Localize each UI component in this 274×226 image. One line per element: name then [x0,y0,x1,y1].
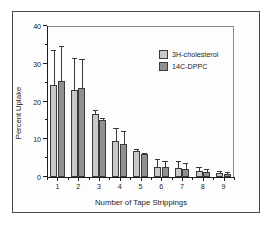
x-tick-2 [78,177,79,181]
x-tick-9 [224,177,225,181]
bar-14c-dppc-5 [141,154,148,177]
error-bar-cap-2-0 [72,58,77,59]
x-tick-label-6: 6 [159,182,163,191]
bar-3h-cholesterol-4 [112,141,119,177]
error-bar-cap-6-0 [155,159,160,160]
legend-swatch-icon-0 [159,50,168,59]
y-tick-label-30: 30 [33,59,41,68]
y-minor-tick-35 [45,44,48,45]
bar-14c-dppc-1 [58,81,65,177]
x-tick-label-7: 7 [180,182,184,191]
error-bar-cap-5-0 [134,149,139,150]
x-tick-3 [99,177,100,181]
x-boundary-tick-9 [234,177,235,180]
error-bar-stem-5-1 [144,154,145,155]
chart-legend: 3H-cholesterol14C-DPPC [159,50,218,71]
error-bar-stem-4-0 [116,129,117,141]
error-bar-stem-4-1 [124,132,125,144]
legend-label: 3H-cholesterol [172,50,218,59]
error-bar-cap-4-1 [121,131,126,132]
error-bar-stem-6-1 [165,162,166,168]
x-boundary-tick-2 [89,177,90,180]
x-tick-8 [203,177,204,181]
bar-3h-cholesterol-3 [92,114,99,177]
x-boundary-tick-4 [130,177,131,180]
error-bar-stem-9-1 [227,173,228,174]
bar-3h-cholesterol-2 [71,90,78,177]
legend-swatch-icon-1 [159,62,168,71]
y-minor-tick-25 [45,82,48,83]
x-boundary-tick-8 [213,177,214,180]
error-bar-cap-8-0 [196,167,201,168]
x-boundary-tick-1 [68,177,69,180]
x-tick-label-9: 9 [222,182,226,191]
bar-14c-dppc-8 [203,172,210,177]
x-tick-1 [57,177,58,181]
x-tick-label-3: 3 [97,182,101,191]
plot-frame-top [47,26,234,27]
x-tick-label-4: 4 [118,182,122,191]
x-boundary-tick-0 [47,177,48,180]
y-tick-10 [43,138,47,139]
error-bar-cap-4-0 [113,128,118,129]
figure: 010203040 123456789 3H-cholesterol14C-DP… [0,0,274,226]
error-bar-cap-3-1 [100,118,105,119]
x-boundary-tick-5 [151,177,152,180]
x-boundary-tick-6 [172,177,173,180]
error-bar-stem-2-0 [74,59,75,90]
y-tick-40 [43,25,47,26]
error-bar-cap-9-1 [225,172,230,173]
error-bar-cap-5-1 [142,153,147,154]
error-bar-cap-7-1 [183,163,188,164]
error-bar-cap-1-1 [59,46,64,47]
y-tick-label-40: 40 [33,22,41,31]
error-bar-stem-8-1 [207,170,208,172]
legend-item-3h-cholesterol[interactable]: 3H-cholesterol [159,50,218,59]
bar-3h-cholesterol-6 [154,167,161,177]
error-bar-cap-1-0 [51,50,56,51]
x-boundary-tick-3 [109,177,110,180]
legend-label: 14C-DPPC [172,62,208,71]
x-tick-label-5: 5 [139,182,143,191]
error-bar-stem-3-0 [95,111,96,114]
error-bar-cap-9-0 [217,171,222,172]
error-bar-stem-7-1 [186,164,187,169]
error-bar-stem-7-0 [178,162,179,168]
x-tick-label-1: 1 [55,182,59,191]
y-tick-label-20: 20 [33,97,41,106]
bar-14c-dppc-7 [182,169,189,177]
y-axis-title: Percent Uptake [14,87,23,139]
error-bar-cap-6-1 [162,161,167,162]
error-bar-stem-2-1 [82,60,83,89]
plot-area: 010203040 123456789 3H-cholesterol14C-DP… [47,26,234,177]
x-tick-5 [141,177,142,181]
bar-14c-dppc-2 [78,88,85,177]
x-tick-7 [182,177,183,181]
x-tick-label-8: 8 [201,182,205,191]
bar-14c-dppc-3 [99,120,106,177]
x-tick-6 [161,177,162,181]
x-tick-4 [120,177,121,181]
error-bar-cap-3-0 [93,110,98,111]
error-bar-stem-6-0 [157,160,158,166]
bar-14c-dppc-6 [162,167,169,177]
error-bar-stem-9-0 [220,172,221,173]
bar-14c-dppc-9 [224,174,231,177]
x-axis-title: Number of Tape Strippings [95,198,187,207]
error-bar-cap-8-1 [204,169,209,170]
error-bar-cap-7-0 [176,161,181,162]
bar-14c-dppc-4 [120,144,127,177]
x-tick-label-2: 2 [76,182,80,191]
y-tick-label-0: 0 [37,173,41,182]
y-tick-30 [43,63,47,64]
y-tick-20 [43,101,47,102]
legend-item-14c-dppc[interactable]: 14C-DPPC [159,62,218,71]
y-tick-label-10: 10 [33,135,41,144]
bar-3h-cholesterol-1 [50,85,57,177]
error-bar-stem-5-0 [137,150,138,151]
error-bar-cap-2-1 [79,59,84,60]
bar-3h-cholesterol-9 [216,173,223,177]
bar-3h-cholesterol-5 [133,151,140,177]
error-bar-stem-1-0 [54,51,55,85]
y-minor-tick-5 [45,157,48,158]
